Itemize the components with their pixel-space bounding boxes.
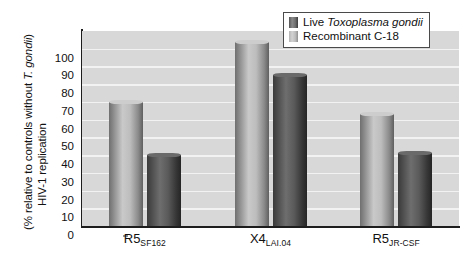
y-axis-title-suffix: ): [22, 34, 34, 38]
category-base: X4: [250, 231, 266, 246]
legend-swatch-live-icon: [289, 17, 298, 28]
legend-label-live-prefix: Live: [303, 16, 327, 28]
x-axis-category-label: R5JR-CSF: [372, 231, 419, 246]
bar-recombinant-c18: [398, 153, 432, 226]
y-axis-tick-label: 0: [68, 230, 74, 242]
category-subscript: LAI.04: [266, 238, 291, 248]
bar-cap: [273, 73, 307, 77]
y-axis-tick-label: 60: [61, 124, 74, 136]
bar-chart-figure: HIV-1 replication (% relative to control…: [0, 0, 472, 268]
gridline: [82, 49, 459, 51]
y-axis-tick-label: 10: [61, 213, 74, 225]
y-axis-tick-label: 90: [61, 71, 74, 83]
gridline: [82, 66, 459, 68]
y-axis-title-prefix: (% relative to controls without: [22, 80, 34, 230]
category-subscript: SF162: [140, 238, 166, 248]
bar-cap: [109, 100, 143, 104]
legend-label-live-species: Toxoplasma gondii: [327, 16, 422, 28]
x-axis-category-label: X4LAI.04: [250, 231, 291, 246]
bar-cap: [398, 151, 432, 155]
bar-cap: [360, 112, 394, 116]
bar-recombinant-c18: [147, 155, 181, 226]
bar-body: [147, 155, 181, 226]
category-subscript: JR-CSF: [389, 238, 420, 248]
bar-body: [109, 102, 143, 226]
y-axis-tick-label: 100: [55, 53, 74, 65]
bar-live-toxoplasma: [109, 102, 143, 226]
y-axis-title-species: T. gondii: [22, 38, 34, 80]
bar-body: [235, 42, 269, 226]
chart-legend: Live Toxoplasma gondii Recombinant C-18: [283, 12, 430, 48]
legend-item-live: Live Toxoplasma gondii: [289, 16, 423, 30]
category-base: R5: [124, 231, 141, 246]
y-axis-tick-label: 70: [61, 106, 74, 118]
bar-cap: [147, 153, 181, 157]
gridline: [82, 84, 459, 86]
bar-body: [360, 114, 394, 226]
y-axis-tick-label: 80: [61, 88, 74, 100]
x-axis-line: [81, 226, 460, 228]
y-axis-tick-label: 40: [61, 159, 74, 171]
y-axis-tick-label: 30: [61, 177, 74, 189]
x-axis-category-label: R5SF162: [124, 231, 166, 246]
category-base: R5: [372, 231, 389, 246]
y-axis-tick-label: 20: [61, 195, 74, 207]
legend-item-recombinant: Recombinant C-18: [289, 30, 423, 44]
bar-body: [273, 75, 307, 226]
y-axis-tick-label: 50: [61, 142, 74, 154]
y-axis-tick-labels: 0102030405060708090100: [46, 36, 74, 226]
y-axis-title-line-2: (% relative to controls without T. gondi…: [22, 34, 34, 230]
bar-live-toxoplasma: [360, 114, 394, 226]
plot-area: [82, 31, 459, 226]
legend-label-live: Live Toxoplasma gondii: [303, 16, 423, 30]
bar-body: [398, 153, 432, 226]
x-axis-category-labels: R5SF162X4LAI.04R5JR-CSF: [82, 231, 459, 261]
legend-swatch-recombinant-icon: [289, 31, 298, 42]
legend-label-recombinant: Recombinant C-18: [303, 30, 399, 44]
bar-cap: [235, 40, 269, 44]
bar-live-toxoplasma: [235, 42, 269, 226]
bar-recombinant-c18: [273, 75, 307, 226]
